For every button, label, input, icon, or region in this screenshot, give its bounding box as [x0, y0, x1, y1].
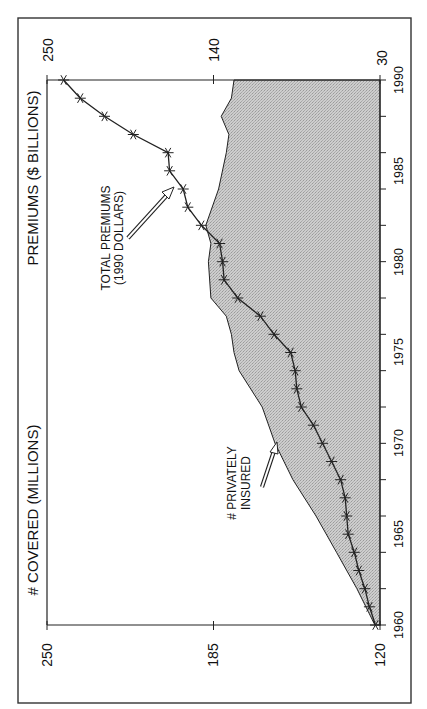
year-label-1960: 1960 — [392, 611, 406, 639]
premium-note-line1: TOTAL PREMIUMS — [99, 185, 113, 290]
covered-tick-250: 250 — [39, 643, 55, 667]
covered-axis-title: # COVERED (MILLIONS) — [24, 425, 41, 596]
year-label-1985: 1985 — [392, 157, 406, 185]
premium-tick-140: 140 — [206, 38, 222, 62]
year-label-1970: 1970 — [392, 429, 406, 457]
insured-note-line1: # PRIVATELY — [225, 446, 239, 519]
chart: # COVERED (MILLIONS) PREMIUMS ($ BILLION… — [0, 0, 427, 709]
year-label-1990: 1990 — [392, 66, 406, 94]
year-label-1975: 1975 — [392, 338, 406, 366]
premium-arrow-icon — [128, 187, 174, 238]
premium-annotation: TOTAL PREMIUMS (1990 DOLLARS) — [99, 185, 174, 290]
premium-axis-title: PREMIUMS ($ BILLIONS) — [24, 90, 41, 265]
asterisk-marker-icon — [178, 184, 189, 194]
year-tick-labels: 1960 1965 1970 1975 1980 1985 1990 — [392, 66, 406, 639]
year-label-1980: 1980 — [392, 248, 406, 276]
insured-note-line2: INSURED — [239, 456, 253, 510]
asterisk-marker-icon — [182, 202, 193, 212]
year-label-1965: 1965 — [392, 520, 406, 548]
asterisk-marker-icon — [128, 130, 139, 140]
premium-tick-30: 30 — [374, 50, 390, 66]
insured-annotation: # PRIVATELY INSURED — [225, 442, 278, 520]
covered-tick-185: 185 — [205, 643, 221, 667]
premium-note-line2: (1990 DOLLARS) — [112, 191, 126, 285]
premium-tick-250: 250 — [40, 38, 56, 62]
insured-arrow-icon — [262, 442, 278, 487]
covered-tick-120: 120 — [372, 643, 388, 667]
